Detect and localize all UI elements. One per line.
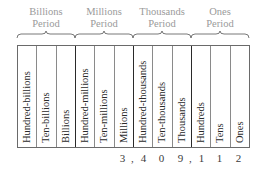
digit-hundred-thousands: 4 [134, 152, 153, 164]
column-hundred-millions: Hundred-millions [76, 46, 95, 147]
column-millions: Millions [115, 46, 134, 147]
period-name: Billions [17, 6, 75, 18]
column-label: Hundred-billions [21, 71, 33, 143]
column-hundred-billions: Hundred-billions [18, 46, 37, 147]
digit-hundreds: 1 [192, 152, 211, 164]
digit-thousands: 9 [171, 152, 190, 164]
period-label-billions: Billions Period [17, 6, 75, 30]
brace-billions [17, 31, 75, 38]
column-label: Hundred-millions [79, 68, 91, 143]
period-label-thousands: Thousands Period [133, 6, 191, 30]
column-label: Ten-billions [40, 92, 52, 143]
period-suffix: Period [133, 18, 191, 30]
column-tens: Tens [211, 46, 230, 147]
column-hundreds: Hundreds [192, 46, 211, 147]
place-value-table: Hundred-billions Ten-billions Billions H… [17, 45, 250, 148]
column-label: Billions [60, 110, 72, 143]
brace-millions [75, 31, 133, 38]
period-name: Thousands [133, 6, 191, 18]
column-billions: Billions [57, 46, 76, 147]
column-label: Ten-millions [98, 89, 110, 143]
brace-thousands [133, 31, 191, 38]
digit-millions: 3 [113, 152, 132, 164]
column-label: Millions [118, 107, 130, 143]
column-ones: Ones [231, 46, 250, 147]
period-label-ones: Ones Period [191, 6, 249, 30]
period-label-millions: Millions Period [75, 6, 133, 30]
brace-ones [191, 31, 249, 38]
column-ten-millions: Ten-millions [95, 46, 114, 147]
column-hundred-thousands: Hundred-thousands [134, 46, 153, 147]
column-label: Ones [234, 121, 246, 143]
digit-tens: 1 [210, 152, 229, 164]
column-thousands: Thousands [173, 46, 192, 147]
period-name: Ones [191, 6, 249, 18]
period-suffix: Period [191, 18, 249, 30]
period-name: Millions [75, 6, 133, 18]
column-label: Tens [214, 123, 226, 143]
period-suffix: Period [75, 18, 133, 30]
column-label: Ten-thousands [156, 82, 168, 143]
column-ten-thousands: Ten-thousands [153, 46, 172, 147]
digit-ones: 2 [229, 152, 248, 164]
column-label: Hundred-thousands [137, 61, 149, 143]
column-label: Hundreds [195, 102, 207, 143]
column-label: Thousands [176, 98, 188, 144]
column-ten-billions: Ten-billions [37, 46, 56, 147]
period-suffix: Period [17, 18, 75, 30]
digit-ten-thousands: 0 [152, 152, 171, 164]
